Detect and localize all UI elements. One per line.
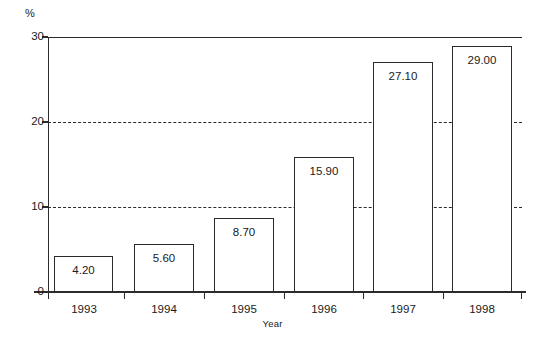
- y-tick-label: 20: [20, 116, 44, 128]
- y-tick-label: 0: [20, 286, 44, 298]
- y-tick-label: 30: [20, 31, 44, 43]
- gridline-20: [48, 122, 522, 123]
- x-tick-separator: [443, 292, 444, 299]
- bar-value-label: 29.00: [453, 54, 511, 66]
- bar-1996: 15.90: [294, 157, 354, 292]
- bar-value-label: 27.10: [374, 70, 432, 82]
- bar-1997: 27.10: [373, 62, 433, 292]
- bar-value-label: 8.70: [215, 226, 273, 238]
- x-axis-title: Year: [0, 319, 545, 329]
- x-category-label-1996: 1996: [284, 303, 364, 315]
- x-tick-separator: [284, 292, 285, 299]
- bar-1995: 8.70: [214, 218, 274, 292]
- y-tick-label: 10: [20, 201, 44, 213]
- x-tick-separator: [124, 292, 125, 299]
- x-tick-separator: [521, 292, 522, 299]
- bar-value-label: 4.20: [55, 264, 112, 276]
- bar-1998: 29.00: [452, 46, 512, 292]
- bar-value-label: 5.60: [135, 252, 193, 264]
- x-tick-separator: [363, 292, 364, 299]
- y-axis-unit-label: %: [25, 8, 35, 19]
- bar-1993: 4.20: [54, 256, 113, 292]
- x-category-label-1995: 1995: [204, 303, 284, 315]
- x-category-label-1994: 1994: [124, 303, 204, 315]
- bar-1994: 5.60: [134, 244, 194, 292]
- x-category-label-1997: 1997: [363, 303, 443, 315]
- plot-area-frame: [48, 37, 522, 292]
- x-category-label-1993: 1993: [44, 303, 124, 315]
- x-tick-separator: [48, 292, 49, 299]
- gridline-10: [48, 207, 522, 208]
- bar-value-label: 15.90: [295, 165, 353, 177]
- x-category-label-1998: 1998: [442, 303, 522, 315]
- bar-chart: % 0 10 20 30 4.20 5.60 8.70 15.90 27.10 …: [0, 0, 545, 345]
- x-tick-separator: [204, 292, 205, 299]
